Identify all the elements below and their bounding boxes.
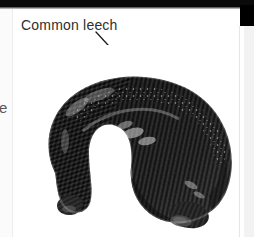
top-right-corner-block — [240, 5, 254, 26]
leech-figure: Common leech — [13, 9, 240, 237]
right-margin-inner — [240, 26, 244, 237]
top-rule — [0, 0, 254, 7]
figure-page: e Common leech — [0, 0, 254, 237]
leech-photo — [13, 45, 240, 237]
figure-label: Common leech — [21, 17, 118, 33]
adjacent-column-bleed-text: e — [0, 100, 7, 115]
left-gutter — [0, 9, 12, 237]
